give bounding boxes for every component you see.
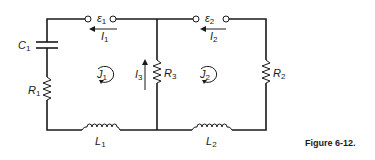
resistor-r1 bbox=[43, 77, 51, 100]
resistor-r3 bbox=[153, 60, 161, 83]
label-emf2: ε2 bbox=[205, 12, 215, 26]
label-l2: L2 bbox=[206, 135, 217, 149]
right-branch bbox=[232, 60, 270, 130]
figure-caption: Figure 6-12. bbox=[305, 138, 356, 148]
label-r2: R2 bbox=[273, 67, 286, 81]
label-r3: R3 bbox=[164, 67, 177, 81]
label-j1: J1 bbox=[96, 68, 108, 82]
emf1-source bbox=[85, 16, 157, 22]
label-c1: C1 bbox=[18, 39, 31, 53]
label-i1: I1 bbox=[101, 30, 109, 44]
label-i3: I3 bbox=[135, 68, 143, 82]
label-i2: I2 bbox=[210, 30, 218, 44]
label-r1: R1 bbox=[28, 84, 41, 98]
inductor-l2 bbox=[192, 124, 232, 130]
label-l1: L1 bbox=[95, 135, 106, 149]
label-j2: J2 bbox=[199, 68, 211, 82]
resistor-r2 bbox=[262, 60, 270, 83]
label-emf1: ε1 bbox=[97, 12, 107, 26]
emf2-source bbox=[193, 16, 266, 60]
circuit-diagram: ε1 ε2 I1 I2 I3 C1 R1 R3 R2 J1 J2 L1 L2 F… bbox=[0, 0, 375, 160]
left-branch bbox=[36, 19, 85, 130]
inductor-l1 bbox=[82, 124, 120, 130]
